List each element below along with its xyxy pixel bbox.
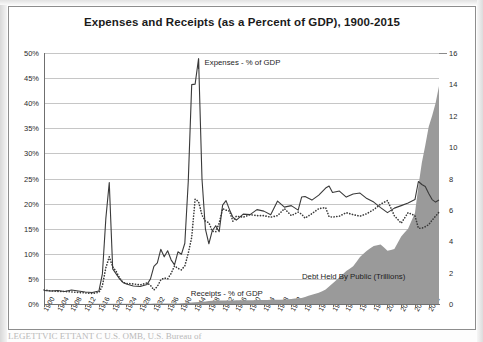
screenshot-page: Expenses and Receipts (as a Percent of G… (0, 0, 483, 342)
y2-axis-tick-label: 0 (449, 300, 469, 309)
source-footnote: LEGETTVIC ETTANT C U.S. OMB, U.S. Bureau… (8, 332, 474, 342)
y-axis-tick-label: 50% (13, 49, 39, 58)
annotation-expenses: Expenses - % of GDP (205, 58, 281, 67)
scan-edge-top (0, 0, 483, 5)
scan-edge-right (477, 0, 483, 342)
y-axis-tick-label: 45% (13, 74, 39, 83)
annotation-receipts: Receipts - % of GDP (191, 289, 263, 298)
annotation-debt: Debt Held By Public (Trillions) (302, 271, 406, 282)
source-footnote-text: LEGETTVIC ETTANT C U.S. OMB, U.S. Bureau… (8, 332, 474, 341)
annotation-debt-line1: Debt Held By Public (302, 272, 371, 281)
annotation-debt-line2: (Trillions) (373, 272, 405, 281)
y-axis-tick-label: 10% (13, 249, 39, 258)
y2-axis-tick-label: 2 (449, 268, 469, 277)
y-axis-tick-label: 15% (13, 224, 39, 233)
chart-title: Expenses and Receipts (as a Percent of G… (9, 16, 475, 28)
y2-axis-tick-label: 14 (449, 80, 469, 89)
y-axis-tick-label: 40% (13, 99, 39, 108)
y-axis-tick-label: 5% (13, 274, 39, 283)
y2-axis-tick-label: 6 (449, 205, 469, 214)
y-axis-tick-label: 35% (13, 124, 39, 133)
y-axis-tick-label: 0% (13, 300, 39, 309)
scan-edge-left (0, 0, 7, 342)
y2-axis-tick-label: 12 (449, 111, 469, 120)
y2-axis-tick-label: 16 (449, 49, 469, 58)
chart-svg (44, 53, 439, 304)
y-axis-tick-label: 30% (13, 149, 39, 158)
y2-axis-tick-label: 4 (449, 237, 469, 246)
chart-frame: Expenses and Receipts (as a Percent of G… (8, 6, 476, 330)
y-axis-tick-label: 25% (13, 174, 39, 183)
y-axis-tick-label: 20% (13, 199, 39, 208)
plot-area (44, 53, 439, 304)
y2-axis-tick-label: 8 (449, 174, 469, 183)
y2-axis-tick-label: 10 (449, 143, 469, 152)
